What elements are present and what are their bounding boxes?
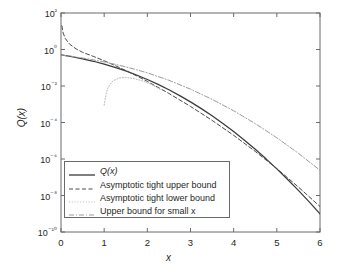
y-tick-label: 10²: [23, 7, 57, 19]
x-tick-label: 3: [181, 237, 201, 248]
chart-figure: Q(x) x 10²10⁰10⁻²10⁻⁴10⁻⁶10⁻⁸10⁻¹⁰ 01234…: [0, 0, 337, 271]
legend-swatch-dashed-icon: [69, 180, 95, 190]
chart-series-3: [61, 55, 320, 170]
x-tick-label: 4: [224, 237, 244, 248]
legend-label-q: Q(x): [100, 166, 118, 176]
y-tick-label: 10⁻⁸: [23, 190, 57, 202]
y-tick-label: 10⁻⁶: [23, 153, 57, 165]
y-tick-label: 10⁻⁴: [23, 117, 57, 129]
legend-swatch-solid-icon: [69, 166, 95, 176]
legend-label-upper-bound: Asymptotic tight upper bound: [100, 180, 217, 190]
legend-swatch-dashdot-icon: [69, 206, 95, 216]
legend-item-upper-bound: Asymptotic tight upper bound: [69, 178, 229, 191]
x-tick-label: 5: [267, 237, 287, 248]
y-tick-label: 10⁰: [23, 44, 57, 56]
x-tick-label: 6: [310, 237, 330, 248]
y-tick-label: 10⁻²: [23, 80, 57, 92]
legend-swatch-dotted-icon: [69, 193, 95, 203]
legend-item-q: Q(x): [69, 164, 229, 177]
x-axis-ticklabels: 0123456: [0, 235, 337, 255]
legend-label-small-x-bound: Upper bound for small x: [100, 206, 196, 216]
legend-item-small-x-bound: Upper bound for small x: [69, 204, 229, 217]
x-tick-label: 2: [137, 237, 157, 248]
x-tick-label: 1: [94, 237, 114, 248]
legend-item-lower-bound: Asymptotic tight lower bound: [69, 191, 229, 204]
legend-label-lower-bound: Asymptotic tight lower bound: [100, 193, 215, 203]
x-tick-label: 0: [51, 237, 71, 248]
chart-legend: Q(x) Asymptotic tight upper bound Asympt…: [64, 161, 230, 218]
y-axis-ticklabels: 10²10⁰10⁻²10⁻⁴10⁻⁶10⁻⁸10⁻¹⁰: [17, 0, 57, 271]
